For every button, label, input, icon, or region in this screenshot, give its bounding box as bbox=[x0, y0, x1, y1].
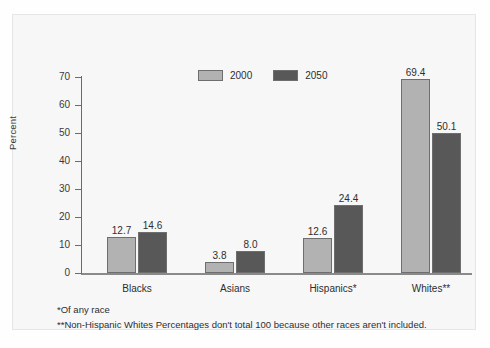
bar-value-label: 50.1 bbox=[437, 121, 456, 133]
footnote-1: *Of any race bbox=[57, 302, 467, 317]
y-tick-70: 70 bbox=[75, 77, 82, 78]
y-tick-40: 40 bbox=[75, 161, 82, 162]
y-tick-0: 0 bbox=[75, 273, 82, 274]
bar-asians-2050[interactable]: 8.0 bbox=[236, 251, 265, 273]
plot-area: 12.714.6Blacks3.88.0Asians12.624.4Hispan… bbox=[81, 77, 471, 273]
bar-whites-2000[interactable]: 69.4 bbox=[401, 79, 430, 273]
footnotes: *Of any race **Non-Hispanic Whites Perce… bbox=[57, 302, 467, 332]
x-axis-label-asians: Asians bbox=[220, 283, 250, 294]
x-axis-label-whites: Whites** bbox=[412, 283, 450, 294]
bar-value-label: 69.4 bbox=[406, 67, 425, 79]
y-tick-10: 10 bbox=[75, 245, 82, 246]
y-tick-label-60: 60 bbox=[59, 98, 70, 111]
bar-value-label: 24.4 bbox=[339, 193, 358, 205]
bar-group: 69.450.1Whites** bbox=[401, 77, 461, 273]
bar-blacks-2000[interactable]: 12.7 bbox=[107, 237, 136, 273]
footnote-2: **Non-Hispanic Whites Percentages don't … bbox=[57, 317, 467, 332]
y-tick-label-30: 30 bbox=[59, 182, 70, 195]
bar-hispanics-2000[interactable]: 12.6 bbox=[303, 238, 332, 273]
x-axis-label-blacks: Blacks bbox=[122, 283, 151, 294]
bar-hispanics-2050[interactable]: 24.4 bbox=[334, 205, 363, 273]
y-tick-60: 60 bbox=[75, 105, 82, 106]
bar-whites-2050[interactable]: 50.1 bbox=[432, 133, 461, 273]
bar-value-label: 3.8 bbox=[213, 250, 227, 262]
y-tick-20: 20 bbox=[75, 217, 82, 218]
y-tick-label-0: 0 bbox=[64, 266, 70, 279]
bar-group: 12.624.4Hispanics* bbox=[303, 77, 363, 273]
y-tick-30: 30 bbox=[75, 189, 82, 190]
bar-group: 12.714.6Blacks bbox=[107, 77, 167, 273]
bar-asians-2000[interactable]: 3.8 bbox=[205, 262, 234, 273]
y-tick-label-70: 70 bbox=[59, 70, 70, 83]
bar-value-label: 8.0 bbox=[244, 239, 258, 251]
bar-value-label: 14.6 bbox=[143, 220, 162, 232]
y-tick-label-20: 20 bbox=[59, 210, 70, 223]
chart-frame: 2000 2050 Percent 12.714.6Blacks3.88.0As… bbox=[12, 14, 476, 330]
y-axis-title: Percent bbox=[7, 116, 18, 150]
chart-figure: 2000 2050 Percent 12.714.6Blacks3.88.0As… bbox=[0, 0, 490, 348]
x-axis-line bbox=[81, 273, 472, 275]
y-tick-label-50: 50 bbox=[59, 126, 70, 139]
bar-value-label: 12.6 bbox=[308, 226, 327, 238]
bar-group: 3.88.0Asians bbox=[205, 77, 265, 273]
y-tick-50: 50 bbox=[75, 133, 82, 134]
x-axis-label-hispanics: Hispanics* bbox=[309, 283, 356, 294]
y-tick-label-40: 40 bbox=[59, 154, 70, 167]
y-tick-label-10: 10 bbox=[59, 238, 70, 251]
bar-value-label: 12.7 bbox=[112, 225, 131, 237]
bar-blacks-2050[interactable]: 14.6 bbox=[138, 232, 167, 273]
